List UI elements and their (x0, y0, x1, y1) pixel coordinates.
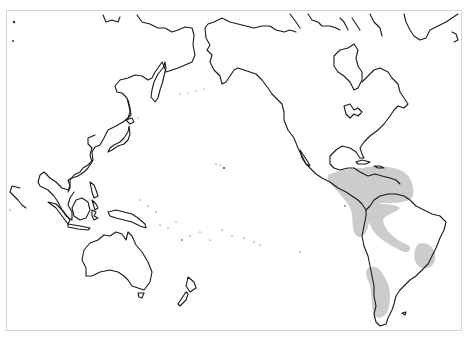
coast-borneo (72, 198, 90, 220)
coast-greenland (404, 14, 458, 42)
coast-java (68, 224, 90, 230)
coast-north-america-east (330, 68, 408, 184)
coast-new-zealand (178, 277, 196, 306)
map-canvas (0, 0, 467, 337)
coast-china-southeast-asia (10, 135, 95, 220)
coast-baja-california (300, 150, 310, 166)
coast-sulawesi (92, 210, 98, 220)
distribution-range (328, 166, 435, 317)
coast-great-lakes (344, 104, 362, 118)
coast-japan (108, 100, 134, 152)
range-southern-chile (366, 266, 390, 317)
coast-hudson-bay (334, 44, 362, 90)
coast-falklands (402, 312, 406, 315)
coast-australia (82, 232, 152, 290)
pacific-islands (9, 21, 345, 253)
range-central-america-north-south-america (328, 166, 414, 237)
coast-north-america-arctic (290, 14, 382, 36)
coast-new-guinea (108, 210, 146, 228)
coast-northeast-asia (68, 15, 195, 192)
coast-tasmania (138, 293, 144, 298)
range-amazon-arc (368, 204, 410, 252)
coast-sumatra (48, 202, 70, 224)
coast-philippines (90, 182, 98, 210)
